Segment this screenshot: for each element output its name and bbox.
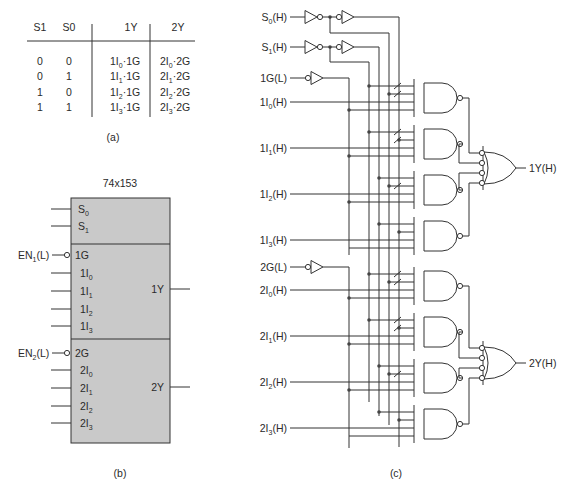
junction-dot bbox=[367, 130, 371, 134]
inversion-bubble-icon bbox=[479, 355, 484, 360]
data-input-label: 1I2(H) bbox=[260, 188, 287, 202]
cell-s0: 1 bbox=[66, 101, 72, 113]
cell-2y: 2I1·2G bbox=[160, 70, 190, 84]
chip-symbol: 74x153 S0S1EN1(L)1G1I01I11I21I31YEN2(L)2… bbox=[18, 177, 190, 479]
header-s1: S1 bbox=[34, 21, 47, 33]
inversion-bubble-icon bbox=[479, 180, 484, 185]
nand-gate-icon bbox=[424, 409, 457, 439]
inversion-bubble-icon bbox=[305, 264, 310, 269]
inversion-bubble-icon bbox=[457, 283, 462, 288]
junction-dot bbox=[367, 272, 371, 276]
inverter-icon bbox=[305, 41, 317, 54]
buffer-icon bbox=[311, 261, 323, 274]
header-2y: 2Y bbox=[172, 21, 185, 33]
junction-dot bbox=[347, 108, 351, 112]
junction-dot bbox=[387, 92, 391, 96]
header-s0: S0 bbox=[63, 21, 76, 33]
input-label-s0: S0(H) bbox=[262, 11, 288, 25]
data-input-label: 2I2(H) bbox=[260, 376, 287, 390]
inversion-bubble-icon bbox=[479, 170, 484, 175]
cell-1y: 1I0·1G bbox=[110, 55, 140, 69]
data-input-label: 2I1(H) bbox=[260, 330, 287, 344]
junction-dot bbox=[367, 318, 371, 322]
header-1y: 1Y bbox=[125, 21, 138, 33]
enable-label: EN1(L) bbox=[18, 249, 49, 263]
nand-gate-icon bbox=[424, 221, 457, 251]
inversion-bubble-icon bbox=[317, 14, 322, 19]
junction-dot bbox=[387, 184, 391, 188]
junction-dot bbox=[377, 364, 381, 368]
inversion-bubble-icon bbox=[64, 252, 69, 257]
caption-a: (a) bbox=[107, 131, 120, 143]
junction-dot bbox=[397, 230, 401, 234]
junction-dot bbox=[387, 280, 391, 284]
caption-c: (c) bbox=[390, 467, 402, 479]
inverter-icon bbox=[305, 11, 317, 24]
junction-dot bbox=[347, 388, 351, 392]
cell-s1: 0 bbox=[37, 55, 43, 67]
multiplexer-figure: S1 S0 1Y 2Y 001I0·1G2I0·2G011I1·1G2I1·2G… bbox=[0, 0, 571, 493]
data-input-label: 1I3(H) bbox=[260, 234, 287, 248]
junction-dot bbox=[347, 342, 351, 346]
inversion-bubble-icon bbox=[457, 421, 462, 426]
input-label-1g: 1G(L) bbox=[260, 72, 287, 84]
junction-dot bbox=[347, 154, 351, 158]
buffer-icon bbox=[311, 72, 323, 85]
output-pin-label: 1Y bbox=[151, 283, 164, 295]
output-label: 2Y(H) bbox=[529, 357, 556, 369]
cell-s0: 1 bbox=[66, 70, 72, 82]
enable-pin-label: 1G bbox=[75, 249, 89, 261]
cell-s0: 0 bbox=[66, 55, 72, 67]
cell-s1: 1 bbox=[37, 101, 43, 113]
inversion-bubble-icon bbox=[336, 14, 341, 19]
junction-dot bbox=[367, 84, 371, 88]
inversion-bubble-icon bbox=[479, 365, 484, 370]
inversion-bubble-icon bbox=[479, 160, 484, 165]
inversion-bubble-icon bbox=[336, 44, 341, 49]
inversion-bubble-icon bbox=[479, 375, 484, 380]
table-row: 001I0·1G2I0·2G bbox=[37, 55, 190, 69]
cell-2y: 2I0·2G bbox=[160, 55, 190, 69]
inversion-bubble-icon bbox=[457, 233, 462, 238]
inversion-bubble-icon bbox=[317, 44, 322, 49]
inversion-bubble-icon bbox=[305, 75, 310, 80]
junction-dot bbox=[387, 372, 391, 376]
table-row: 101I2·1G2I2·2G bbox=[37, 86, 190, 100]
cell-2y: 2I2·2G bbox=[160, 86, 190, 100]
junction-dot bbox=[377, 410, 381, 414]
or-gate-icon bbox=[484, 152, 516, 184]
data-input-label: 2I0(H) bbox=[260, 284, 287, 298]
table-row: 011I1·1G2I1·2G bbox=[37, 70, 190, 84]
logic-diagram: S0(H)S1(H)1G(L)2G(L)1I0(H)1I1(H)1I2(H)1I… bbox=[260, 11, 557, 449]
input-label-s1: S1(H) bbox=[262, 41, 288, 55]
chip-name: 74x153 bbox=[103, 177, 138, 189]
caption-b: (b) bbox=[114, 467, 127, 479]
nand-gate-icon bbox=[424, 129, 457, 159]
output-pin-label: 2Y bbox=[151, 381, 164, 393]
data-input-label: 1I0(H) bbox=[260, 96, 287, 110]
enable-pin-label: 2G bbox=[75, 347, 89, 359]
inversion-bubble-icon bbox=[479, 150, 484, 155]
nand-gate-icon bbox=[424, 175, 457, 205]
data-input-label: 2I3(H) bbox=[260, 422, 287, 436]
cell-s0: 0 bbox=[66, 86, 72, 98]
nand-gate-icon bbox=[424, 363, 457, 393]
cell-2y: 2I3·2G bbox=[160, 101, 190, 115]
or-gate-icon bbox=[484, 347, 516, 379]
cell-1y: 1I1·1G bbox=[110, 70, 140, 84]
cell-1y: 1I3·1G bbox=[110, 101, 140, 115]
junction-dot bbox=[377, 176, 381, 180]
table-row: 111I3·1G2I3·2G bbox=[37, 101, 190, 115]
output-label: 1Y(H) bbox=[529, 162, 556, 174]
cell-1y: 1I2·1G bbox=[110, 86, 140, 100]
enable-label: EN2(L) bbox=[18, 347, 49, 361]
truth-table: S1 S0 1Y 2Y 001I0·1G2I0·2G011I1·1G2I1·2G… bbox=[27, 21, 195, 143]
cell-s1: 1 bbox=[37, 86, 43, 98]
data-input-label: 1I1(H) bbox=[260, 142, 287, 156]
buffer-icon bbox=[342, 11, 354, 24]
junction-dot bbox=[397, 418, 401, 422]
inversion-bubble-icon bbox=[64, 350, 69, 355]
input-label-2g: 2G(L) bbox=[260, 261, 287, 273]
junction-dot bbox=[347, 296, 351, 300]
buffer-icon bbox=[342, 41, 354, 54]
